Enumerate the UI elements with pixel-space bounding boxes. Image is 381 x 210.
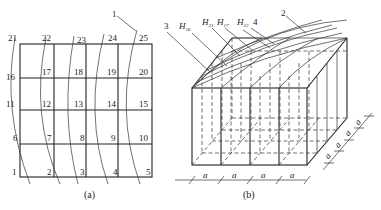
- callout-2: 2: [281, 8, 286, 18]
- node-label: 5: [146, 167, 151, 177]
- node-label: 19: [107, 67, 117, 77]
- dimension-a: a: [261, 170, 266, 180]
- node-label: 13: [74, 99, 84, 109]
- node-label: 21: [8, 33, 17, 43]
- dimension-a: a: [203, 170, 208, 180]
- node-label: 7: [47, 133, 52, 143]
- figure-b-surface-mesh: [192, 20, 347, 88]
- figure-b-labels: 3 H16 H21 H17 H22 4 2: [164, 8, 286, 32]
- figure-b-caption: (b): [243, 189, 255, 201]
- node-label: 17: [42, 67, 52, 77]
- callout-3: 3: [164, 21, 169, 31]
- node-label: 8: [80, 133, 85, 143]
- node-label: 6: [13, 133, 18, 143]
- callout-1: 1: [112, 9, 117, 19]
- node-label: 25: [139, 33, 149, 43]
- depth-dimension-line: a a a a: [322, 113, 374, 170]
- height-label-h22: H22: [236, 17, 249, 28]
- node-label: 1: [12, 167, 17, 177]
- node-label: 20: [139, 67, 149, 77]
- node-label: 11: [6, 99, 15, 109]
- height-label-h21: H21: [201, 17, 214, 28]
- dimension-a: a: [290, 170, 295, 180]
- node-label: 12: [42, 99, 51, 109]
- height-label-h16: H16: [178, 21, 191, 32]
- front-dimension-line: a a a a: [175, 170, 310, 184]
- node-label: 4: [113, 167, 118, 177]
- node-label: 2: [47, 167, 52, 177]
- node-label: 10: [139, 133, 149, 143]
- node-label: 9: [111, 133, 116, 143]
- node-label: 24: [108, 33, 118, 43]
- node-label: 18: [74, 67, 84, 77]
- node-label: 3: [80, 167, 85, 177]
- node-label: 22: [42, 33, 51, 43]
- height-label-h17: H17: [216, 17, 229, 28]
- figure-a-node-labels: 21 22 23 24 25 16 17 18 19 20 11 12 13 1…: [6, 9, 151, 177]
- node-label: 16: [6, 72, 16, 82]
- figure-a-caption: (a): [84, 189, 95, 201]
- callout-4: 4: [253, 17, 258, 27]
- node-label: 23: [77, 35, 87, 45]
- dimension-a: a: [232, 170, 237, 180]
- node-label: 14: [107, 99, 117, 109]
- node-label: 15: [139, 99, 149, 109]
- figure-b-box: [192, 38, 347, 165]
- diagram-canvas: 21 22 23 24 25 16 17 18 19 20 11 12 13 1…: [0, 0, 381, 210]
